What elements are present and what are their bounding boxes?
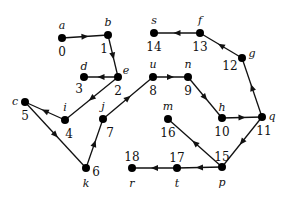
- node-number: 7: [106, 126, 114, 140]
- node-label: m: [163, 100, 173, 113]
- node-dot: [80, 73, 88, 81]
- node-number: 0: [58, 45, 66, 59]
- graph-node-3: 3d: [75, 60, 88, 96]
- node-number: 8: [149, 84, 157, 98]
- node-label: r: [129, 177, 135, 190]
- graph-node-10: 10h: [214, 101, 229, 139]
- node-number: 10: [214, 125, 229, 139]
- node-label: n: [184, 58, 191, 71]
- node-number: 18: [124, 150, 139, 164]
- graph-node-16: 16m: [160, 100, 175, 140]
- node-dot: [21, 98, 29, 106]
- arrowhead-icon: [174, 30, 181, 36]
- arrowhead-icon: [151, 165, 158, 171]
- graph-node-8: 8u: [149, 58, 157, 98]
- node-label: h: [218, 101, 225, 114]
- node-label: f: [197, 14, 204, 27]
- node-dot: [99, 115, 107, 123]
- node-number: 14: [146, 40, 162, 54]
- node-label: e: [123, 64, 130, 77]
- node-label: j: [98, 100, 105, 113]
- node-number: 16: [160, 126, 175, 140]
- node-dot: [218, 114, 226, 122]
- node-label: p: [218, 176, 225, 189]
- node-dot: [61, 116, 69, 124]
- node-dot: [184, 73, 192, 81]
- graph-node-13: 13f: [192, 14, 207, 54]
- graph-node-12: 12g: [222, 47, 255, 73]
- node-number: 3: [75, 82, 83, 96]
- node-number: 2: [114, 84, 122, 98]
- graph-node-18: 18r: [124, 150, 139, 190]
- node-dot: [104, 31, 112, 39]
- nodes-layer: 0a1b2e3d4i5c6k7j8u9n10h11q12g13f14s15p16…: [12, 14, 276, 190]
- arrowhead-icon: [196, 164, 203, 170]
- arrowhead-icon: [167, 74, 174, 80]
- graph-node-4: 4i: [61, 101, 73, 141]
- graph-node-6: 6k: [82, 164, 100, 190]
- node-dot: [128, 164, 136, 172]
- arrowhead-icon: [109, 52, 115, 60]
- node-label: b: [104, 16, 111, 29]
- node-number: 17: [169, 151, 184, 165]
- node-label: u: [149, 58, 156, 71]
- graph-node-9: 9n: [184, 58, 192, 98]
- arrowhead-icon: [238, 115, 245, 121]
- arrowhead-icon: [250, 84, 256, 92]
- node-label: d: [80, 60, 87, 73]
- node-number: 12: [222, 59, 237, 73]
- node-dot: [218, 163, 226, 171]
- arrowhead-icon: [91, 140, 97, 148]
- node-dot: [164, 115, 172, 123]
- graph-node-14: 14s: [146, 14, 162, 54]
- node-label: i: [63, 101, 67, 114]
- arrowhead-icon: [81, 34, 88, 40]
- node-label: g: [248, 47, 255, 60]
- node-dot: [238, 54, 246, 62]
- graph-node-15: 15p: [214, 150, 229, 189]
- node-dot: [150, 29, 158, 37]
- node-label: a: [59, 19, 66, 32]
- node-dot: [149, 73, 157, 81]
- node-number: 5: [21, 109, 29, 123]
- node-label: q: [268, 110, 275, 123]
- node-number: 6: [92, 165, 100, 179]
- node-number: 15: [214, 150, 229, 164]
- node-number: 11: [256, 124, 271, 138]
- node-number: 1: [100, 42, 108, 56]
- arrowhead-icon: [98, 74, 105, 80]
- node-label: k: [83, 177, 90, 190]
- graph-node-11: 11q: [256, 110, 275, 138]
- node-dot: [258, 113, 266, 121]
- node-dot: [173, 164, 181, 172]
- node-number: 13: [192, 40, 207, 54]
- node-dot: [82, 164, 90, 172]
- node-dot: [114, 73, 122, 81]
- node-dot: [58, 34, 66, 42]
- graph-node-17: 17t: [169, 151, 184, 190]
- directed-graph-diagram: 0a1b2e3d4i5c6k7j8u9n10h11q12g13f14s15p16…: [0, 0, 285, 198]
- node-number: 4: [65, 127, 73, 141]
- graph-node-5: 5c: [12, 95, 29, 123]
- node-label: s: [151, 14, 157, 27]
- graph-node-7: 7j: [98, 100, 114, 140]
- node-label: t: [175, 177, 180, 190]
- node-label: c: [12, 95, 18, 108]
- graph-node-0: 0a: [58, 19, 66, 59]
- node-number: 9: [184, 84, 192, 98]
- node-dot: [196, 29, 204, 37]
